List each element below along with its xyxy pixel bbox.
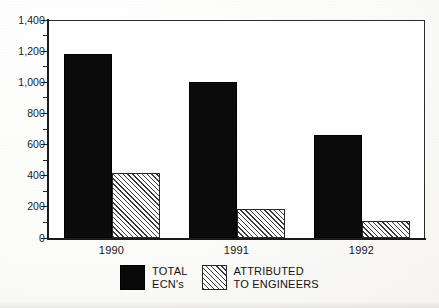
solid-black-swatch xyxy=(120,265,145,290)
scanned-page: 02004006008001,0001,2001,400 19901991199… xyxy=(0,0,439,308)
legend-label-attributed-line1: ATTRIBUTED xyxy=(234,265,319,278)
bar-1992-series-1 xyxy=(314,135,362,238)
bar-1992-series-2 xyxy=(362,221,410,238)
y-tick-label: 1,200 xyxy=(1,46,45,56)
y-tick-minor xyxy=(43,66,48,67)
y-tick-minor xyxy=(43,35,48,36)
y-tick-minor xyxy=(43,222,48,223)
y-tick-minor xyxy=(43,191,48,192)
legend-label-total-line1: TOTAL xyxy=(152,265,187,278)
bar-1990-series-1 xyxy=(64,54,112,238)
bar-1991-series-2 xyxy=(237,209,285,238)
y-tick-label: 0 xyxy=(1,233,45,243)
y-tick-label: 800 xyxy=(1,108,45,118)
bar-1990-series-2 xyxy=(112,173,160,238)
plot-area xyxy=(49,21,424,238)
chart-legend: TOTAL ECN's ATTRIBUTED TO ENGINEERS xyxy=(0,265,439,290)
legend-label-total: TOTAL ECN's xyxy=(152,265,187,290)
y-tick-label: 1,000 xyxy=(1,77,45,87)
y-tick-minor xyxy=(43,129,48,130)
y-tick-label: 200 xyxy=(1,201,45,211)
y-tick-label: 1,400 xyxy=(1,15,45,25)
legend-item-attributed: ATTRIBUTED TO ENGINEERS xyxy=(202,265,319,290)
y-tick-label: 400 xyxy=(1,170,45,180)
x-tick-label-1991: 1991 xyxy=(174,244,299,256)
y-tick-label: 600 xyxy=(1,139,45,149)
y-tick-minor xyxy=(43,97,48,98)
hatched-swatch xyxy=(202,265,227,290)
legend-label-attributed-line2: TO ENGINEERS xyxy=(234,278,319,291)
x-axis-line xyxy=(47,238,426,240)
legend-item-total: TOTAL ECN's xyxy=(120,265,187,290)
legend-label-total-line2: ECN's xyxy=(152,278,187,291)
x-tick-label-1990: 1990 xyxy=(49,244,174,256)
page-edge-shadow xyxy=(0,301,439,308)
legend-label-attributed: ATTRIBUTED TO ENGINEERS xyxy=(234,265,319,290)
y-tick-minor xyxy=(43,160,48,161)
bar-1991-series-1 xyxy=(189,82,237,238)
x-tick-label-1992: 1992 xyxy=(299,244,424,256)
